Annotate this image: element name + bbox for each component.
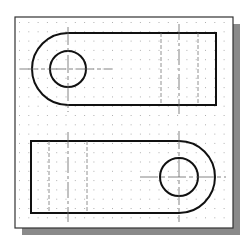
technical-drawing-canvas bbox=[0, 0, 250, 246]
shadow-right bbox=[233, 24, 240, 235]
drawing-sheet bbox=[15, 17, 233, 228]
shadow-bottom bbox=[22, 228, 240, 235]
